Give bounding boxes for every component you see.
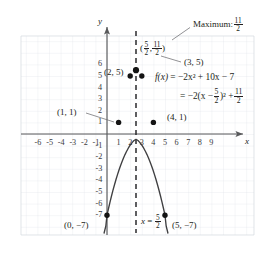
x-tick-1: 1	[117, 139, 121, 147]
y-tick--2: -2	[96, 153, 103, 161]
equation-equals-2: =	[180, 91, 185, 101]
equation-vertex-form-part-b: )² +	[220, 91, 234, 101]
axis-of-symmetry-variable: x	[141, 216, 145, 226]
vertex-point-label: (52,112)	[140, 41, 165, 57]
equation-equals-1: =	[170, 72, 175, 82]
x-tick-2: 2	[128, 139, 132, 147]
equation-standard-form: −2x² + 10x − 7	[178, 72, 234, 82]
equation-vertex-h-fraction: 52	[214, 88, 220, 105]
y-tick-1: 1	[98, 118, 102, 126]
point-label-4-1: (4, 1)	[167, 113, 187, 122]
y-tick-4: 4	[98, 83, 102, 91]
x-tick-3: 3	[140, 139, 144, 147]
x-tick-9: 9	[209, 139, 213, 147]
equation-line-2: = −2(x −52)² +112	[180, 88, 244, 105]
y-tick--5: -5	[96, 188, 103, 196]
x-tick--3: -3	[69, 139, 76, 147]
x-tick-5: 5	[163, 139, 167, 147]
y-tick--7: -7	[96, 211, 103, 219]
point-label-0-neg7: (0, −7)	[64, 221, 89, 230]
y-axis-label: y	[98, 17, 102, 26]
graph-canvas	[0, 0, 275, 257]
x-axis-label: x	[245, 137, 249, 146]
vertex-label-x-fraction: 52	[144, 41, 150, 57]
x-tick--4: -4	[58, 139, 65, 147]
point-5-neg7	[162, 213, 167, 218]
equation-vertex-k-denominator: 2	[234, 97, 243, 105]
equation-vertex-form-part-a: −2(x −	[188, 91, 213, 101]
y-tick--6: -6	[96, 199, 103, 207]
x-tick--5: -5	[46, 139, 53, 147]
equation-vertex-k-fraction: 112	[234, 88, 243, 105]
point-2-5	[128, 73, 133, 78]
vertex-label-y-denominator: 2	[152, 49, 161, 57]
point-label-5-neg7: (5, −7)	[172, 221, 197, 230]
point-vertex	[133, 67, 139, 73]
point-3-5	[139, 73, 144, 78]
point-0-neg7	[104, 213, 109, 218]
y-tick-2: 2	[98, 107, 102, 115]
maximum-annotation-prefix: Maximum:	[193, 19, 233, 29]
y-tick-3: 3	[98, 95, 102, 103]
point-1-1	[116, 120, 121, 125]
x-tick-6: 6	[175, 139, 179, 147]
point-label-1-1: (1, 1)	[57, 108, 77, 117]
x-tick--2: -2	[81, 139, 88, 147]
y-tick--4: -4	[96, 176, 103, 184]
point-4-1	[151, 120, 156, 125]
vertex-label-close-paren: )	[162, 43, 165, 53]
vertex-label-y-fraction: 112	[152, 41, 161, 57]
y-tick-6: 6	[98, 60, 102, 68]
y-tick--1: -1	[96, 141, 103, 149]
maximum-annotation-fraction: 112	[234, 17, 243, 33]
point-label-2-5: (2, 5)	[104, 68, 124, 77]
point-label-3-5: (3, 5)	[184, 58, 204, 67]
axis-of-symmetry-fraction: 52	[155, 214, 161, 230]
equation-line-1: f(x) = −2x² + 10x − 7	[155, 73, 234, 82]
x-tick--6: -6	[35, 139, 42, 147]
axis-of-symmetry-label: x = 52	[141, 214, 161, 230]
equation-lhs: f(x)	[155, 72, 168, 82]
x-tick-4: 4	[151, 139, 155, 147]
maximum-annotation-denominator: 2	[234, 25, 243, 33]
vertex-label-x-denominator: 2	[144, 49, 150, 57]
grid-background	[21, 36, 254, 235]
y-tick--3: -3	[96, 165, 103, 173]
equation-vertex-h-denominator: 2	[214, 97, 220, 105]
axis-of-symmetry-denominator: 2	[155, 222, 161, 230]
parabola-graph-figure: -6 -5 -4 -3 -2 -1 1 2 3 4 5 6 7 8 9 6 5 …	[0, 0, 275, 257]
x-tick-8: 8	[198, 139, 202, 147]
y-tick-5: 5	[98, 72, 102, 80]
maximum-annotation: Maximum:112	[193, 17, 243, 33]
axis-of-symmetry-equals: =	[147, 216, 152, 226]
x-tick-7: 7	[186, 139, 190, 147]
